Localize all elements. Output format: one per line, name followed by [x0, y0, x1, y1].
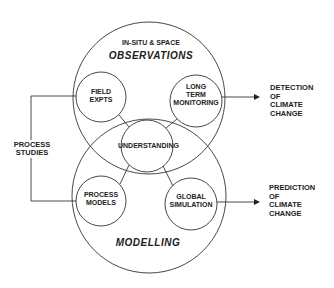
process-studies-label: PROCESS STUDIES: [12, 141, 52, 157]
detection-output-label: DETECTION OF CLIMATE CHANGE: [270, 84, 330, 118]
process-studies-bracket: [31, 96, 76, 140]
detection-arrowhead-icon: [254, 94, 260, 100]
process-models-label: PROCESS MODELS: [80, 191, 122, 207]
understanding-label: UNDERSTANDING: [118, 142, 176, 150]
connector-understanding-global: [163, 166, 173, 186]
connector-understanding-process: [120, 165, 129, 184]
connector-field-understanding: [119, 115, 129, 127]
field-expts-label: FIELD EXPTS: [86, 88, 116, 104]
prediction-arrowhead-icon: [254, 199, 260, 205]
observations-subtitle: IN-SITU & SPACE: [118, 39, 184, 47]
observations-title: OBSERVATIONS: [104, 50, 198, 62]
process-studies-bracket-lower: [31, 158, 76, 201]
prediction-output-label: PREDICTION OF CLIMATE CHANGE: [269, 184, 329, 218]
long-term-monitoring-label: LONG TERM MONITORING: [170, 83, 222, 107]
global-simulation-label: GLOBAL SIMULATION: [165, 193, 217, 209]
modelling-title: MODELLING: [108, 237, 188, 249]
